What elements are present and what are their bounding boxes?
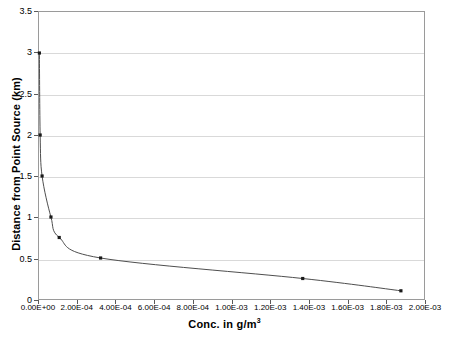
series-line <box>39 53 401 291</box>
x-tick-mark <box>386 300 387 304</box>
x-tick-mark <box>232 300 233 304</box>
x-axis-title-exponent: 3 <box>257 317 261 324</box>
plot-area <box>38 11 425 300</box>
chart-container: 00.511.522.533.5 0.00E+002.00E-044.00E-0… <box>0 0 449 340</box>
data-point-marker <box>301 277 304 280</box>
y-axis-title: Distance from Point Source (km) <box>10 34 22 294</box>
data-point-marker <box>58 236 61 239</box>
x-tick-mark <box>154 300 155 304</box>
data-point-marker <box>39 133 42 136</box>
x-tick-mark <box>115 300 116 304</box>
x-tick-mark <box>77 300 78 304</box>
x-axis-title: Conc. in g/m3 <box>0 317 449 330</box>
x-axis-title-base: Conc. in g/m <box>188 318 256 330</box>
y-axis-title-wrap: Distance from Point Source (km) <box>0 0 18 340</box>
x-tick-mark <box>270 300 271 304</box>
x-tick-mark <box>348 300 349 304</box>
data-point-marker <box>49 215 52 218</box>
data-point-marker <box>40 174 43 177</box>
data-point-marker <box>399 289 402 292</box>
x-tick-mark <box>193 300 194 304</box>
data-point-marker <box>99 256 102 259</box>
x-tick-mark <box>309 300 310 304</box>
data-point-marker <box>38 51 41 54</box>
x-tick-label: 2.00E-03 <box>395 303 449 312</box>
data-series-line <box>39 12 424 299</box>
x-tick-mark <box>38 300 39 304</box>
x-tick-mark <box>425 300 426 304</box>
